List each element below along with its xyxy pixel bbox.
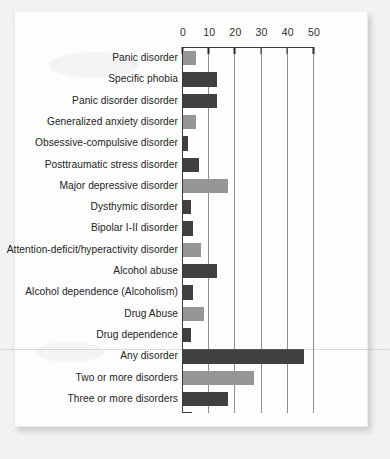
category-label: Drug Abuse <box>124 304 178 325</box>
bar <box>183 51 196 65</box>
bar <box>183 243 201 257</box>
bar-row: Attention-deficit/hyperactivity disorder <box>15 240 367 261</box>
category-label: Attention-deficit/hyperactivity disorder <box>7 240 178 261</box>
bar <box>183 179 228 193</box>
bar <box>183 307 204 321</box>
x-tick-label-10: 10 <box>203 26 215 38</box>
bar-chart: 01020304050 Panic disorderSpecific phobi… <box>15 12 367 426</box>
bar <box>183 328 191 342</box>
bar-row: Drug Abuse <box>15 304 367 325</box>
chart-paper: 01020304050 Panic disorderSpecific phobi… <box>14 11 368 427</box>
x-tick-label-0: 0 <box>180 26 186 38</box>
bar-row: Three or more disorders <box>15 389 367 410</box>
bar-row: Two or more disorders <box>15 368 367 389</box>
bar-row: Alcohol abuse <box>15 261 367 282</box>
bar-row: Drug dependence <box>15 325 367 346</box>
bar-row: Generalized anxiety disorder <box>15 112 367 133</box>
category-label: Alcohol dependence (Alcoholism) <box>25 282 178 303</box>
bar <box>183 371 254 385</box>
category-label: Specific phobia <box>108 69 178 90</box>
bar <box>183 158 199 172</box>
category-label: Two or more disorders <box>76 368 178 389</box>
bar-row: Bipolar I-II disorder <box>15 218 367 239</box>
bar-row: Major depressive disorder <box>15 176 367 197</box>
category-label: Obsessive-compulsive disorder <box>35 133 178 154</box>
bar <box>183 136 188 150</box>
bar-row: Alcohol dependence (Alcoholism) <box>15 282 367 303</box>
bar <box>183 221 193 235</box>
category-label: Drug dependence <box>96 325 178 346</box>
bar-row: Posttraumatic stress disorder <box>15 155 367 176</box>
category-label: Panic disorder disorder <box>72 91 178 112</box>
category-label: Three or more disorders <box>68 389 178 410</box>
x-tick-label-50: 50 <box>308 26 320 38</box>
x-tick-label-40: 40 <box>282 26 294 38</box>
axis-bottom-rule <box>182 412 192 413</box>
bar <box>183 392 228 406</box>
x-tick-label-30: 30 <box>256 26 268 38</box>
category-label: Panic disorder <box>112 48 178 69</box>
bar-row: Panic disorder disorder <box>15 91 367 112</box>
bar <box>183 200 191 214</box>
category-label: Dysthymic disorder <box>90 197 178 218</box>
bar <box>183 285 193 299</box>
bar-row: Obsessive-compulsive disorder <box>15 133 367 154</box>
category-label: Bipolar I-II disorder <box>91 218 178 239</box>
category-label: Alcohol abuse <box>113 261 178 282</box>
bar-row: Panic disorder <box>15 48 367 69</box>
bar <box>183 72 217 86</box>
bar-row: Any disorder <box>15 346 367 367</box>
bar <box>183 115 196 129</box>
x-tick-label-20: 20 <box>229 26 241 38</box>
category-label: Major depressive disorder <box>60 176 178 197</box>
bar <box>183 264 217 278</box>
bar-row: Dysthymic disorder <box>15 197 367 218</box>
category-label: Posttraumatic stress disorder <box>45 155 178 176</box>
category-label: Generalized anxiety disorder <box>47 112 178 133</box>
category-label: Any disorder <box>120 346 178 367</box>
bar <box>183 349 304 363</box>
bar-row: Specific phobia <box>15 69 367 90</box>
bar <box>183 94 217 108</box>
